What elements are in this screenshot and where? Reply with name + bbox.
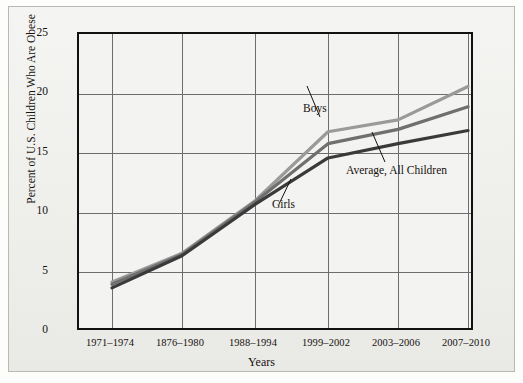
x-axis-title: Years: [9, 355, 514, 370]
chart-screenshot: Percent of U.S. Children Who Are Obese 2…: [0, 0, 523, 383]
y-tick-label-15: 15: [8, 146, 48, 158]
plot-area: [77, 32, 473, 330]
y-tick-label-5: 5: [8, 265, 48, 277]
y-tick-label-20: 20: [8, 86, 48, 98]
series-line-average-all-children: [112, 107, 468, 285]
scanned-page: Percent of U.S. Children Who Are Obese 2…: [8, 6, 515, 372]
annotation-boys: Boys: [303, 103, 327, 115]
y-tick-label-10: 10: [8, 205, 48, 217]
y-tick-label-0: 0: [8, 324, 48, 336]
annotation-girls: Girls: [272, 199, 295, 211]
series-line-boys: [112, 86, 468, 281]
y-tick-label-25: 25: [8, 27, 48, 39]
series-lines: [79, 34, 475, 332]
x-tick-label-2007-2010: 2007–2010: [418, 337, 514, 348]
annotation-average-all-children: Average, All Children: [346, 165, 447, 177]
